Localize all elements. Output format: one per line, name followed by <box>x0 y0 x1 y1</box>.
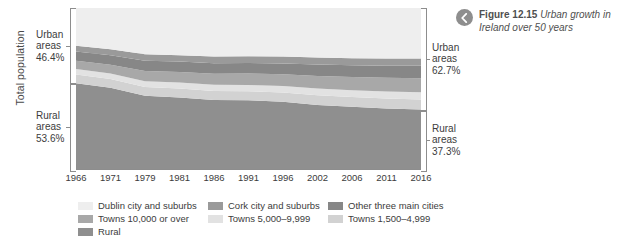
legend-swatch <box>328 215 343 223</box>
x-axis-line <box>76 169 421 170</box>
x-tick-2002: 2002 <box>307 172 328 183</box>
annotation-left-rural: Rural areas 53.6% <box>36 110 64 145</box>
annotation-right-urban-value: 62.7% <box>432 65 460 77</box>
legend-row: Rural <box>78 226 498 239</box>
annotation-right-urban-line1: Urban <box>432 42 460 54</box>
x-tick-2006: 2006 <box>341 172 362 183</box>
legend-swatch <box>78 202 93 210</box>
legend-swatch <box>208 215 223 223</box>
legend-swatch <box>328 202 343 210</box>
legend-row: Towns 10,000 or overTowns 5,000–9,999Tow… <box>78 213 498 226</box>
left-urban-tick <box>66 46 70 47</box>
figure-caption: Figure 12.15 Urban growth in Ireland ove… <box>456 8 638 34</box>
legend-label: Dublin city and suburbs <box>98 200 197 211</box>
plot-svg <box>76 8 421 170</box>
annotation-right-rural-line1: Rural <box>432 123 460 135</box>
chart-block: Total population Urban areas 46.4% Rural… <box>0 0 470 195</box>
legend-label: Cork city and suburbs <box>228 200 320 211</box>
left-rural-tick <box>66 127 70 128</box>
legend-item-cork-city-and-suburbs[interactable]: Cork city and suburbs <box>208 200 328 211</box>
x-tick-2016: 2016 <box>410 172 431 183</box>
legend-item-towns-5-000-9-999[interactable]: Towns 5,000–9,999 <box>208 213 328 224</box>
annotation-left-urban: Urban areas 46.4% <box>36 29 64 64</box>
annotation-right-urban: Urban areas 62.7% <box>432 42 460 77</box>
annotation-right-rural-line2: areas <box>432 134 460 146</box>
figure-number: Figure 12.15 <box>479 9 537 20</box>
annotation-left-rural-line2: areas <box>36 121 64 133</box>
stacked-area-plot <box>76 8 421 170</box>
legend-item-towns-10-000-or-over[interactable]: Towns 10,000 or over <box>78 213 208 224</box>
annotation-right-rural: Rural areas 37.3% <box>432 123 460 158</box>
x-axis-labels: 1966197119791981198619911996200220062011… <box>76 172 421 188</box>
annotation-left-urban-line2: areas <box>36 40 64 52</box>
legend-swatch <box>78 228 93 236</box>
chevron-left-circle-icon[interactable] <box>456 9 473 26</box>
legend-label: Other three main cities <box>348 200 444 211</box>
legend-swatch <box>78 215 93 223</box>
right-urban-bracket <box>421 8 427 112</box>
legend-label: Rural <box>98 226 121 237</box>
annotation-left-urban-line1: Urban <box>36 29 64 41</box>
annotation-left-urban-value: 46.4% <box>36 52 64 64</box>
legend-item-rural[interactable]: Rural <box>78 226 208 237</box>
annotation-right-rural-value: 37.3% <box>432 146 460 158</box>
legend-item-dublin-city-and-suburbs[interactable]: Dublin city and suburbs <box>78 200 208 211</box>
legend-item-towns-1-500-4-999[interactable]: Towns 1,500–4,999 <box>328 213 468 224</box>
x-tick-1996: 1996 <box>272 172 293 183</box>
right-urban-tick <box>426 59 430 60</box>
x-axis-left-cap <box>76 164 77 170</box>
chart-legend: Dublin city and suburbsCork city and sub… <box>78 200 498 239</box>
legend-swatch <box>208 202 223 210</box>
x-tick-1971: 1971 <box>100 172 121 183</box>
figure-container: Total population Urban areas 46.4% Rural… <box>0 0 640 249</box>
legend-item-other-three-main-cities[interactable]: Other three main cities <box>328 200 468 211</box>
right-rural-tick <box>426 140 430 141</box>
legend-row: Dublin city and suburbsCork city and sub… <box>78 200 498 213</box>
x-tick-1991: 1991 <box>238 172 259 183</box>
annotation-left-rural-value: 53.6% <box>36 133 64 145</box>
legend-label: Towns 5,000–9,999 <box>228 213 310 224</box>
x-axis-right-cap <box>420 164 421 170</box>
x-tick-1979: 1979 <box>134 172 155 183</box>
x-tick-1966: 1966 <box>65 172 86 183</box>
x-tick-1981: 1981 <box>169 172 190 183</box>
caption-text: Figure 12.15 Urban growth in Ireland ove… <box>479 8 638 34</box>
y-axis-title: Total population <box>14 8 26 128</box>
x-tick-1986: 1986 <box>203 172 224 183</box>
legend-label: Towns 1,500–4,999 <box>348 213 430 224</box>
x-tick-2011: 2011 <box>376 172 396 183</box>
annotation-left-rural-line1: Rural <box>36 110 64 122</box>
legend-label: Towns 10,000 or over <box>98 213 189 224</box>
annotation-right-urban-line2: areas <box>432 53 460 65</box>
area-series-dublin-city-and-suburbs <box>76 8 421 59</box>
